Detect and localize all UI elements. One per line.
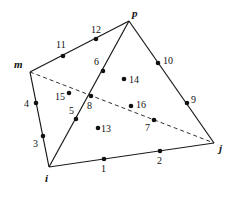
edge-m-p: [30, 21, 129, 72]
node-label: 7: [145, 122, 150, 133]
node-label: 12: [91, 24, 101, 35]
node-10: 10: [156, 55, 173, 66]
node-label: 6: [94, 56, 99, 67]
node-2: 2: [157, 149, 162, 166]
vertex-label-m: m: [14, 58, 23, 70]
node-1: 1: [101, 157, 106, 174]
vertex-label-j: j: [217, 142, 223, 154]
nodes: 12345678910111213141516: [24, 24, 196, 174]
node-5: 5: [69, 105, 78, 121]
node-9: 9: [185, 94, 196, 105]
node-label: 8: [87, 100, 92, 111]
node-label: 13: [101, 123, 111, 134]
node-label: 10: [163, 55, 173, 66]
edge-i-j: [49, 143, 214, 167]
node-label: 3: [33, 138, 38, 149]
node-12: 12: [91, 24, 101, 41]
node-dot: [74, 117, 79, 122]
node-14: 14: [122, 74, 139, 85]
node-dot: [101, 69, 106, 74]
node-label: 11: [56, 39, 66, 50]
node-7: 7: [145, 118, 156, 133]
node-16: 16: [129, 99, 146, 110]
node-dot: [158, 149, 163, 154]
node-label: 5: [69, 105, 74, 116]
node-label: 2: [157, 155, 162, 166]
node-15: 15: [55, 91, 71, 102]
node-label: 4: [24, 98, 29, 109]
tetrahedron-diagram: 12345678910111213141516 mpij: [0, 0, 239, 197]
node-dot: [34, 101, 39, 106]
node-label: 9: [191, 94, 196, 105]
node-13: 13: [96, 123, 111, 134]
edge-m-j: [30, 72, 214, 143]
node-dot: [156, 61, 161, 66]
node-dot: [102, 157, 107, 162]
vertex-label-p: p: [131, 7, 138, 19]
node-dot: [94, 37, 99, 42]
vertex-label-i: i: [45, 172, 49, 184]
node-label: 16: [136, 99, 146, 110]
node-dot: [61, 54, 66, 59]
node-label: 1: [101, 163, 106, 174]
node-dot: [129, 104, 134, 109]
node-dot: [41, 134, 46, 139]
node-dot: [152, 118, 157, 123]
edge-p-j: [129, 21, 214, 143]
node-dot: [122, 77, 127, 82]
node-4: 4: [24, 98, 38, 109]
edge-m-i: [30, 72, 49, 167]
node-dot: [89, 94, 94, 99]
node-label: 15: [55, 91, 65, 102]
node-dot: [185, 101, 190, 106]
node-11: 11: [56, 39, 66, 58]
node-label: 14: [129, 74, 139, 85]
node-6: 6: [94, 56, 105, 73]
node-dot: [96, 126, 101, 131]
node-dot: [67, 91, 72, 96]
